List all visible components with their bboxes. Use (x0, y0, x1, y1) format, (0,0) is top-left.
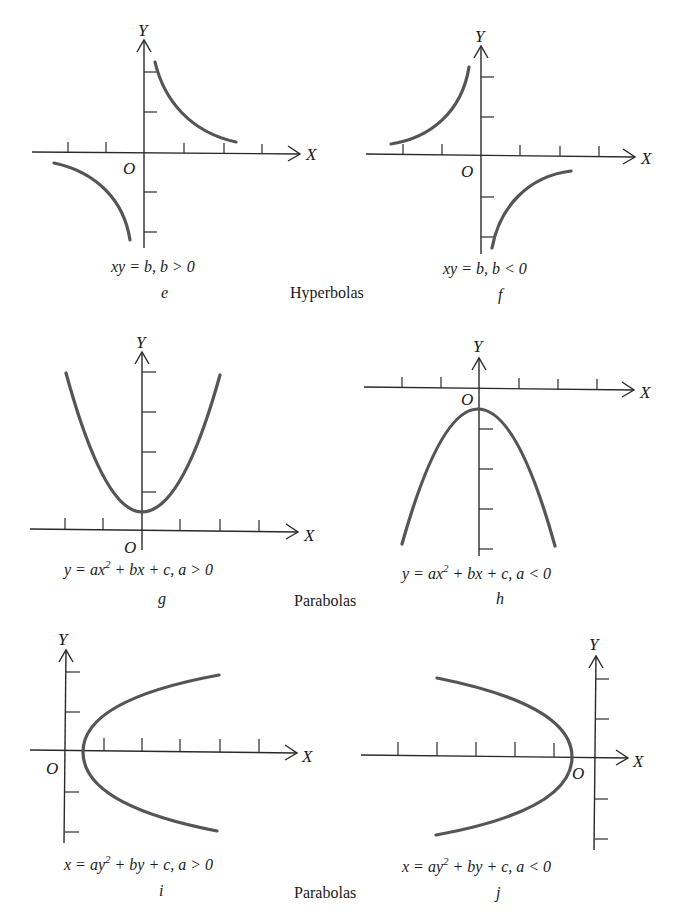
origin-label: O (461, 162, 473, 181)
equation-j: x = ay2 + by + c, a < 0 (401, 855, 551, 876)
group-title-parabolas-1: Parabolas (294, 592, 356, 609)
x-axis-label: X (640, 149, 652, 168)
x-axis (361, 755, 628, 758)
equation-e: xy = b, b > 0 (110, 258, 195, 276)
x-axis (32, 152, 300, 154)
equation-g: y = ax2 + bx + c, a > 0 (62, 558, 213, 579)
y-ticks (595, 679, 609, 839)
y-ticks (479, 429, 493, 549)
y-axis-label: Y (136, 333, 147, 352)
origin-label: O (572, 764, 584, 783)
y-axis-label: Y (473, 337, 484, 356)
equation-i: x = ay2 + by + c, a > 0 (63, 853, 213, 874)
origin-label: O (123, 159, 135, 178)
x-axis-label: X (305, 145, 317, 164)
y-ticks (142, 372, 156, 492)
x-ticks (398, 742, 554, 757)
equation-f: xy = b, b < 0 (442, 260, 527, 278)
origin-label: O (46, 759, 58, 778)
hyperbola-branch-lower (492, 171, 571, 248)
y-axis-label: Y (475, 27, 486, 46)
x-axis-label: X (301, 747, 313, 766)
hyperbola-branch-lower (54, 163, 130, 240)
y-axis-label: Y (138, 21, 149, 40)
x-axis-label: X (632, 752, 644, 771)
y-ticks (481, 77, 494, 237)
hyperbola-branch-upper (155, 62, 236, 142)
y-axis (594, 656, 596, 850)
conic-sections-figure: Y X O xy = b, b > 0 e Hyperbolas Y X O x… (0, 0, 675, 916)
y-ticks (144, 72, 157, 232)
panel-letter-e: e (161, 284, 168, 301)
parabola-curve (66, 373, 220, 512)
panel-i: Y X O x = ay2 + by + c, a > 0 i (30, 630, 313, 899)
panel-e: Y X O xy = b, b > 0 e (32, 21, 317, 301)
panel-h: Y X O y = ax2 + bx + c, a < 0 h (364, 337, 651, 607)
group-title-hyperbolas: Hyperbolas (290, 284, 364, 302)
y-axis-label: Y (58, 630, 69, 649)
panel-g: Y X O y = ax2 + bx + c, a > 0 g (30, 333, 315, 608)
panel-letter-h: h (496, 590, 504, 607)
equation-h: y = ax2 + bx + c, a < 0 (400, 562, 551, 583)
x-axis (366, 154, 635, 157)
x-axis (364, 387, 634, 390)
group-title-parabolas-2: Parabolas (294, 884, 356, 901)
x-axis-label: X (639, 383, 651, 402)
parabola-curve (83, 675, 219, 831)
x-axis-label: X (303, 526, 315, 545)
y-axis-label: Y (589, 635, 600, 654)
panel-letter-f: f (498, 286, 505, 304)
x-axis (30, 529, 298, 532)
origin-label: O (461, 390, 473, 409)
hyperbola-branch-upper (391, 67, 469, 144)
y-axis (64, 650, 66, 843)
panel-f: Y X O xy = b, b < 0 f (366, 27, 652, 304)
x-axis (30, 750, 297, 753)
y-ticks (65, 672, 80, 832)
panel-letter-j: j (494, 884, 501, 902)
panel-j: Y X O x = ay2 + by + c, a < 0 j (361, 635, 644, 902)
origin-label: O (124, 538, 136, 557)
panel-letter-g: g (158, 590, 166, 608)
panel-letter-i: i (159, 882, 163, 899)
